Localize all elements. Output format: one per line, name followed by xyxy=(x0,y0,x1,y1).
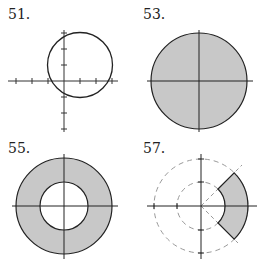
annular-sector-plot xyxy=(135,134,270,268)
figure-51: 51. xyxy=(0,0,135,134)
circle-plot xyxy=(0,0,135,134)
figure-55: 55. xyxy=(0,134,135,268)
annulus-plot xyxy=(0,134,135,268)
figure-57: 57. xyxy=(135,134,270,268)
disk-plot xyxy=(135,0,270,134)
figure-53: 53. xyxy=(135,0,270,134)
